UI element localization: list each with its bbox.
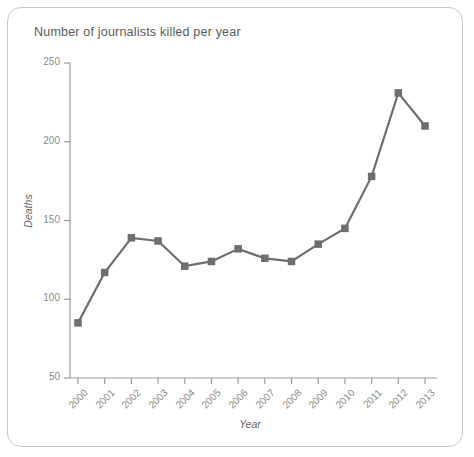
data-point-marker bbox=[234, 245, 242, 253]
data-point-marker bbox=[395, 89, 403, 97]
data-point-marker bbox=[101, 269, 109, 277]
plot-area: Deaths Year 50100150200250 2000200120022… bbox=[0, 0, 474, 457]
chart-page: Number of journalists killed per year De… bbox=[0, 0, 474, 457]
tick-marks-group bbox=[64, 63, 425, 384]
data-point-marker bbox=[261, 255, 269, 262]
data-point-marker bbox=[181, 262, 189, 270]
data-point-marker bbox=[154, 237, 162, 245]
y-axis-label: Deaths bbox=[22, 181, 34, 241]
data-point-marker bbox=[368, 173, 376, 181]
data-point-marker bbox=[208, 258, 216, 266]
data-point-marker bbox=[288, 258, 296, 266]
y-tick-label: 200 bbox=[28, 135, 60, 146]
data-point-marker bbox=[128, 234, 136, 242]
y-tick-label: 100 bbox=[28, 292, 60, 303]
data-point-marker bbox=[74, 319, 82, 327]
y-tick-label: 150 bbox=[28, 214, 60, 225]
data-point-marker bbox=[314, 240, 322, 248]
y-tick-label: 250 bbox=[28, 56, 60, 67]
data-point-marker bbox=[341, 225, 349, 233]
data-series-line bbox=[78, 93, 425, 323]
axes-group bbox=[70, 63, 437, 378]
y-tick-label: 50 bbox=[28, 371, 60, 382]
x-axis-label: Year bbox=[85, 418, 415, 430]
data-point-markers bbox=[74, 89, 429, 326]
data-point-marker bbox=[421, 122, 429, 130]
